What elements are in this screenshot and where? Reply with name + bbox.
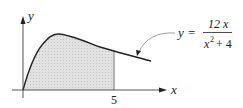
equation-equals: = (188, 25, 195, 40)
x-axis-arrowhead-icon (159, 88, 167, 93)
y-axis-arrowhead-icon (21, 16, 26, 24)
equation-denominator-base: x (203, 37, 210, 51)
leader-arrowhead-icon (136, 50, 141, 56)
shaded-area (23, 34, 114, 90)
figure-canvas: y x 5 y = 12 x x 2 + 4 (0, 0, 243, 108)
x-tick-label-5: 5 (111, 93, 117, 107)
leader-line (139, 33, 175, 52)
y-axis-label: y (26, 8, 34, 23)
equation-numerator: 12 x (208, 17, 229, 31)
equation-lhs: y (176, 25, 184, 40)
equation-denominator-exp: 2 (210, 35, 214, 44)
x-axis-label: x (170, 82, 177, 97)
equation-denominator-rest: + 4 (216, 37, 232, 51)
